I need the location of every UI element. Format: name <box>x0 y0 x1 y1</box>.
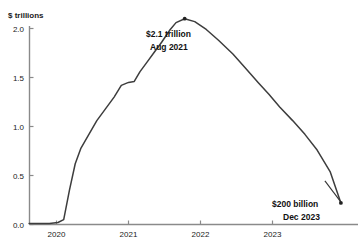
end-annotation-value: $200 billion <box>272 199 318 209</box>
chart-container: 0.0 0.5 1.0 1.5 2.0 $ trillions 2020 202… <box>0 0 362 243</box>
peak-point-marker <box>183 17 187 21</box>
line-chart: 0.0 0.5 1.0 1.5 2.0 $ trillions 2020 202… <box>0 0 362 243</box>
y-tick-label-1: 0.5 <box>13 172 25 181</box>
x-tick-label-2021: 2021 <box>120 230 138 239</box>
x-tick-label-2022: 2022 <box>192 230 210 239</box>
x-tick-label-2023: 2023 <box>264 230 282 239</box>
y-tick-label-4: 2.0 <box>13 25 25 34</box>
y-tick-label-2: 1.0 <box>13 123 25 132</box>
y-axis-title: $ trillions <box>8 11 44 20</box>
x-tick-label-2020: 2020 <box>48 230 66 239</box>
end-annotation-leader-line <box>325 181 341 202</box>
y-tick-label-3: 1.5 <box>13 74 25 83</box>
peak-annotation-date: Aug 2021 <box>150 42 188 52</box>
end-point-marker <box>339 201 343 205</box>
end-annotation-date: Dec 2023 <box>283 212 320 222</box>
y-tick-label-0: 0.0 <box>13 221 25 230</box>
peak-annotation-value: $2.1 trillion <box>146 29 191 39</box>
